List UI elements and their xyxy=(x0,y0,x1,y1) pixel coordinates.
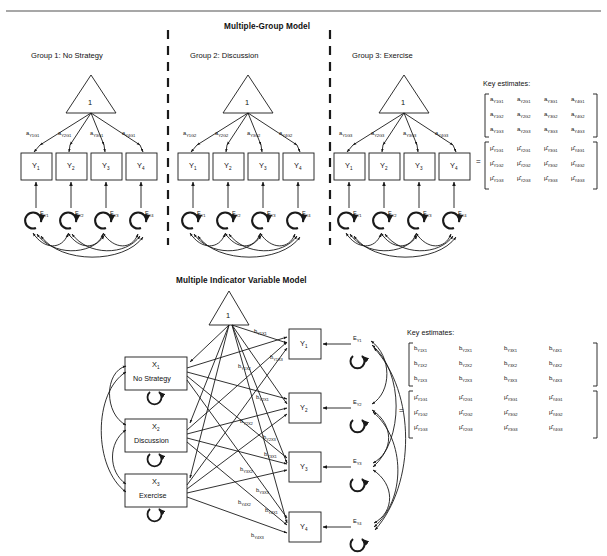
matrix-cell-sub: Y1X3 xyxy=(417,378,427,383)
matrix-cell-sub: Y3G3 xyxy=(507,427,517,432)
top-matrix-equals: = xyxy=(476,158,481,166)
bottom-path-label-y4x3: bY4X3 xyxy=(251,533,264,539)
matrix-cell-sub: Y1G3 xyxy=(493,178,503,183)
path-sub: Y3X2 xyxy=(243,469,253,474)
path-sub: Y4G3 xyxy=(438,133,448,138)
matrix-cell-sub: Y1G1 xyxy=(417,397,427,402)
path-sub: Y3G1 xyxy=(93,133,103,138)
err-sub: Y4 xyxy=(357,521,362,526)
path-sub: Y2X3 xyxy=(266,437,276,442)
var-sub: 4 xyxy=(455,166,458,171)
matrix-cell-sub: Y4G3 xyxy=(552,427,562,432)
var-sub: 3 xyxy=(157,482,160,487)
matrix-cell-sub: Y3G2 xyxy=(507,412,517,417)
matrix-cell-sub: Y1G1 xyxy=(493,148,503,153)
group-3-header: Group 3: Exercise xyxy=(352,52,413,60)
bottom-matrix-b-cell-r3c4: bY4X3 xyxy=(549,376,562,382)
indicator-g2-y3: Y3 xyxy=(259,162,267,170)
matrix-cell-sub: Y4G2 xyxy=(552,412,562,417)
matrix-cell-sub: Y2G2 xyxy=(520,114,530,119)
matrix-cell-sub: Y3G1 xyxy=(507,397,517,402)
matrix-cell-sub: Y3X1 xyxy=(507,348,517,353)
path-sub: Y1G1 xyxy=(29,133,39,138)
bottom-matrix-b-cell-r3c1: bY1X3 xyxy=(414,376,427,382)
top-matrix-a-cell-r2c1: aY1G2 xyxy=(490,112,503,118)
path-sub: Y2X2 xyxy=(243,421,253,426)
path-label-g2-3: aY3G2 xyxy=(247,131,260,137)
var-sub: 2 xyxy=(305,408,308,413)
bottom-constant: 1 xyxy=(226,312,230,319)
bottom-matrix-b-cell-r3c3: bY3X3 xyxy=(504,376,517,382)
err-sub: Y2 xyxy=(392,213,397,218)
bottom-path-label-y1x2: bY1X2 xyxy=(238,364,251,370)
var-sub: 4 xyxy=(142,166,145,171)
indicator-g1-y1: Y1 xyxy=(32,162,40,170)
top-matrix-mu-cell-r2c1: μ̂Y1G2 xyxy=(490,161,503,167)
bottom-matrix-mu-cell-r1c2: μ̂Y2G1 xyxy=(459,395,472,401)
bottom-matrix-mu-cell-r2c3: μ̂Y3G2 xyxy=(504,410,517,416)
err-sub: Y3 xyxy=(271,213,276,218)
matrix-cell-sub: Y4G1 xyxy=(552,397,562,402)
err-sub: Y1 xyxy=(201,213,206,218)
error-g1-4: EY4 xyxy=(145,211,154,217)
var-sub: 2 xyxy=(229,166,232,171)
bottom-matrix-b-cell-r1c3: bY3X1 xyxy=(504,346,517,352)
matrix-cell-sub: Y2G1 xyxy=(520,148,530,153)
var-sub: 1 xyxy=(157,365,160,370)
matrix-cell-sub: Y4G2 xyxy=(574,163,584,168)
matrix-cell-sub: Y2G3 xyxy=(520,178,530,183)
var-sub: 3 xyxy=(264,166,267,171)
var-sub: 2 xyxy=(385,166,388,171)
error-g3-3: EY3 xyxy=(423,211,432,217)
err-sub: Y2 xyxy=(79,213,84,218)
err-sub: Y3 xyxy=(427,213,432,218)
top-matrix-mu-cell-r3c4: μ̂Y4G3 xyxy=(571,176,584,182)
top-matrix-a-cell-r2c3: aY3G2 xyxy=(544,112,557,118)
var-sub: 3 xyxy=(420,166,423,171)
matrix-cell-sub: Y3G3 xyxy=(547,178,557,183)
matrix-cell-sub: Y3X3 xyxy=(507,378,517,383)
path-sub: Y3G3 xyxy=(406,133,416,138)
path-label-g1-4: aY4G1 xyxy=(122,131,135,137)
matrix-cell-sub: Y2G2 xyxy=(520,163,530,168)
matrix-cell-sub: Y1G3 xyxy=(417,427,427,432)
bottom-model-title: Multiple Indicator Variable Model xyxy=(176,277,307,285)
indicator-g1-y4: Y4 xyxy=(137,162,145,170)
bottom-path-label-y2x3: bY2X3 xyxy=(263,435,276,441)
error-g2-2: EY2 xyxy=(232,211,241,217)
matrix-cell-sub: Y1X2 xyxy=(417,363,427,368)
err-sub: Y1 xyxy=(357,338,362,343)
bottom-matrix-b-cell-r2c4: bY4X2 xyxy=(549,361,562,367)
indicator-g2-y4: Y4 xyxy=(294,162,302,170)
matrix-cell-sub: Y4G2 xyxy=(574,114,584,119)
bottom-matrix-b-cell-r1c2: bY2X1 xyxy=(459,346,472,352)
path-label-g1-1: aY1G1 xyxy=(26,131,39,137)
top-matrix-a-cell-r2c4: aY4G2 xyxy=(571,112,584,118)
top-matrix-brackets xyxy=(485,94,597,189)
var-sub: 1 xyxy=(350,166,353,171)
bottom-indicator-y4: Y4 xyxy=(300,523,308,531)
var-sub: 4 xyxy=(305,527,308,532)
var-sub: 4 xyxy=(299,166,302,171)
matrix-cell-sub: Y3G1 xyxy=(547,99,557,104)
top-matrix-a-cell-r3c4: aY4G3 xyxy=(571,127,584,133)
bottom-matrix-mu-cell-r3c4: μ̂Y4G3 xyxy=(549,425,562,431)
bottom-path-label-y4x1: bY4X1 xyxy=(265,508,278,514)
bottom-indicator-y3: Y3 xyxy=(300,463,308,471)
path-sub: Y2X1 xyxy=(259,397,269,402)
var-sub: 2 xyxy=(157,427,160,432)
group-2-header: Group 2: Discussion xyxy=(190,52,258,60)
bottom-matrix-mu-cell-r2c1: μ̂Y1G2 xyxy=(414,410,427,416)
top-matrix-mu-cell-r1c4: μ̂Y4G1 xyxy=(571,146,584,152)
err-sub: Y1 xyxy=(357,213,362,218)
path-sub: Y1G3 xyxy=(342,133,352,138)
error-g1-2: EY2 xyxy=(75,211,84,217)
matrix-cell-sub: Y4G1 xyxy=(574,148,584,153)
top-matrix-mu-cell-r2c2: μ̂Y2G2 xyxy=(517,161,530,167)
err-sub: Y4 xyxy=(306,213,311,218)
matrix-cell-sub: Y2X2 xyxy=(462,363,472,368)
matrix-cell-sub: Y1G3 xyxy=(493,129,503,134)
path-sub: Y4X1 xyxy=(268,510,278,515)
err-sub: Y2 xyxy=(357,402,362,407)
top-key-estimates-caption: Key estimates: xyxy=(483,80,530,87)
